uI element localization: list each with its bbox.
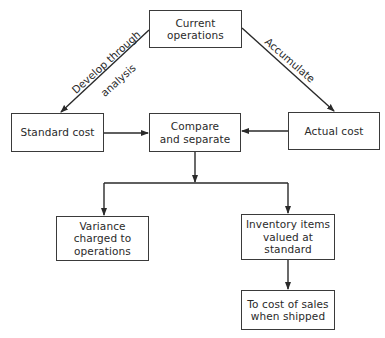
- node-label: Inventory items valued at standard: [246, 218, 330, 256]
- node-variance: Variance charged to operations: [56, 216, 149, 261]
- node-label: Compare and separate: [160, 120, 231, 145]
- connector-layer: [0, 0, 385, 338]
- node-current-operations: Current operations: [149, 10, 242, 48]
- node-label: Variance charged to operations: [74, 220, 132, 258]
- node-standard-cost: Standard cost: [11, 113, 104, 152]
- node-inventory-items: Inventory items valued at standard: [241, 214, 335, 260]
- node-label: Standard cost: [20, 126, 94, 139]
- node-compare-and-separate: Compare and separate: [149, 113, 241, 152]
- edge-current-to-actual: [242, 28, 334, 111]
- node-label: Current operations: [167, 17, 224, 42]
- node-label: Actual cost: [304, 125, 363, 138]
- node-label: To cost of sales when shipped: [247, 298, 328, 323]
- node-actual-cost: Actual cost: [288, 112, 380, 150]
- edge-compare-split: [104, 152, 288, 183]
- node-cost-of-sales: To cost of sales when shipped: [241, 290, 335, 330]
